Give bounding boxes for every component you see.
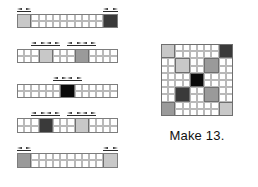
arrow-right-icon xyxy=(113,147,118,149)
dimension-arrow xyxy=(82,42,96,47)
patch-light-gray xyxy=(103,153,117,167)
grid-cell xyxy=(211,73,218,80)
grid-cell xyxy=(39,14,46,21)
grid-cell xyxy=(190,94,197,101)
arrow-left-icon xyxy=(103,147,108,149)
strip-row-3 xyxy=(17,84,118,98)
grid-cell xyxy=(197,94,204,101)
grid-cell xyxy=(31,153,38,160)
grid-cell xyxy=(96,49,103,56)
dimension-arrow xyxy=(17,146,31,151)
grid-cell xyxy=(190,51,197,58)
grid-cell xyxy=(183,51,190,58)
grid-cell xyxy=(204,102,211,109)
caption-make-count: Make 13. xyxy=(161,128,233,143)
grid-cell xyxy=(197,102,204,109)
grid-cell xyxy=(53,56,60,63)
grid-cell xyxy=(24,118,31,125)
arrow-left-icon xyxy=(82,42,87,44)
cell-grid xyxy=(17,49,118,63)
grid-cell xyxy=(17,118,24,125)
patch-medium-gray xyxy=(75,49,89,63)
grid-cell xyxy=(103,126,110,133)
grid-cell xyxy=(96,21,103,28)
patch-light-gray xyxy=(219,102,233,116)
grid-cell xyxy=(161,94,168,101)
grid-cell xyxy=(17,49,24,56)
arrow-left-icon xyxy=(82,112,87,114)
grid-cell xyxy=(190,102,197,109)
grid-cell xyxy=(67,153,74,160)
grid-cell xyxy=(96,91,103,98)
patch-medium-gray xyxy=(161,102,175,116)
dimension-line xyxy=(31,115,45,116)
grid-cell xyxy=(96,84,103,91)
cell-grid xyxy=(17,118,118,132)
dimension-arrow xyxy=(103,7,117,12)
strip-row-4 xyxy=(17,118,118,132)
grid-cell xyxy=(31,118,38,125)
grid-cell xyxy=(175,44,182,51)
dimension-arrow xyxy=(53,77,67,82)
grid-cell xyxy=(89,56,96,63)
grid-cell xyxy=(219,87,226,94)
grid-cell xyxy=(46,153,53,160)
grid-cell xyxy=(82,153,89,160)
assembled-block xyxy=(161,44,233,116)
grid-cell xyxy=(31,91,38,98)
grid-cell xyxy=(24,56,31,63)
grid-cell xyxy=(168,94,175,101)
arrow-right-icon xyxy=(26,147,31,149)
dimension-line xyxy=(53,80,67,81)
grid-cell xyxy=(46,91,53,98)
dimension-arrow xyxy=(67,77,81,82)
grid-cell xyxy=(46,84,53,91)
grid-cell xyxy=(46,14,53,21)
grid-cell xyxy=(53,126,60,133)
grid-cell xyxy=(31,56,38,63)
grid-cell xyxy=(226,66,233,73)
grid-cell xyxy=(31,160,38,167)
dimension-line xyxy=(67,115,81,116)
grid-cell xyxy=(96,14,103,21)
grid-cell xyxy=(190,44,197,51)
patch-dark-gray xyxy=(175,87,189,101)
grid-cell xyxy=(53,91,60,98)
dimension-line xyxy=(103,11,117,12)
grid-cell xyxy=(60,118,67,125)
grid-cell xyxy=(89,126,96,133)
grid-cell xyxy=(219,66,226,73)
grid-cell xyxy=(226,73,233,80)
grid-cell xyxy=(24,84,31,91)
grid-cell xyxy=(39,153,46,160)
grid-cell xyxy=(211,102,218,109)
grid-cell xyxy=(75,84,82,91)
grid-cell xyxy=(24,91,31,98)
dimension-line xyxy=(103,150,117,151)
grid-cell xyxy=(96,118,103,125)
grid-cell xyxy=(67,49,74,56)
grid-cell xyxy=(168,80,175,87)
grid-cell xyxy=(197,58,204,65)
grid-cell xyxy=(60,21,67,28)
grid-cell xyxy=(60,160,67,167)
grid-cell xyxy=(175,102,182,109)
arrow-left-icon xyxy=(67,42,72,44)
grid-cell xyxy=(161,58,168,65)
grid-cell xyxy=(110,118,117,125)
arrow-left-icon xyxy=(67,112,72,114)
arrow-right-icon xyxy=(91,112,96,114)
arrow-right-icon xyxy=(55,112,60,114)
grid-cell xyxy=(46,21,53,28)
grid-cell xyxy=(60,153,67,160)
grid-cell xyxy=(168,87,175,94)
grid-cell xyxy=(60,49,67,56)
grid-cell xyxy=(17,126,24,133)
grid-cell xyxy=(219,94,226,101)
grid-cell xyxy=(31,14,38,21)
dimension-arrow xyxy=(46,111,60,116)
grid-cell xyxy=(110,49,117,56)
grid-cell xyxy=(31,84,38,91)
grid-cell xyxy=(175,73,182,80)
strip-row-1 xyxy=(17,14,118,28)
